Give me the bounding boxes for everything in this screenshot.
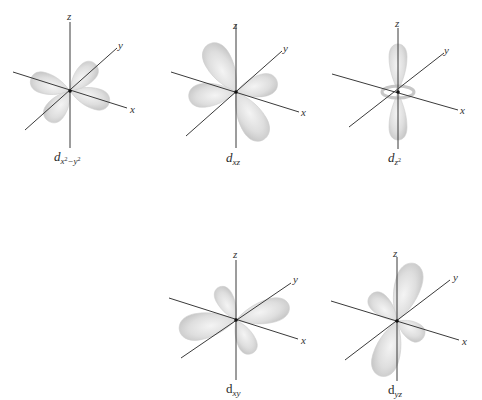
x-axis-label: x xyxy=(300,106,306,118)
x-axis-label: x xyxy=(300,334,306,346)
orbital-dxz: z y x dxz xyxy=(171,19,306,167)
nucleus-dot xyxy=(395,319,399,323)
x-axis-label: x xyxy=(129,103,135,115)
x-axis-label: x xyxy=(461,335,467,347)
orbital-dx2-y2: z y x dx2−y2 xyxy=(13,10,135,166)
y-axis-label: y xyxy=(282,42,288,54)
z-axis-label: z xyxy=(394,17,400,29)
orbital-dxy: z y x dxy xyxy=(169,248,306,398)
nucleus-dot xyxy=(396,90,400,94)
orbital-label-dz2: dz2 xyxy=(388,150,401,167)
z-axis-label: z xyxy=(66,10,72,22)
orbital-label-dyz: dyz xyxy=(388,382,402,399)
nucleus-dot xyxy=(234,90,238,94)
z-axis-label: z xyxy=(392,247,398,259)
y-axis-label: y xyxy=(117,39,123,51)
y-axis-label: y xyxy=(443,44,449,56)
nucleus-dot xyxy=(234,318,238,322)
orbital-label-dxz: dxz xyxy=(226,150,240,167)
y-axis-label: y xyxy=(292,273,298,285)
orbital-label-dxy: dxy xyxy=(226,381,241,398)
z-axis-label: z xyxy=(232,248,238,260)
z-axis-label: z xyxy=(232,19,238,31)
orbital-label-dx2-y2: dx2−y2 xyxy=(54,149,81,166)
x-axis-label: x xyxy=(459,104,465,116)
nucleus-dot xyxy=(68,89,72,93)
y-axis-label: y xyxy=(452,271,458,283)
d-orbitals-figure: z y x dx2−y2 z y x dxz xyxy=(0,0,482,400)
orbital-dyz: z y x dyz xyxy=(331,247,467,399)
orbital-dz2: z y x dz2 xyxy=(332,17,465,167)
